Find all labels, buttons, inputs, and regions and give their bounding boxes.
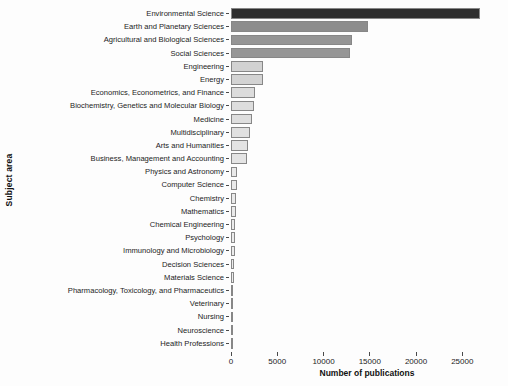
category-label: Economics, Econometrics, and Finance: [0, 86, 224, 99]
y-tick-mark: [226, 264, 229, 265]
bar: [231, 298, 233, 309]
bar-row: Earth and Planetary Sciences: [0, 20, 508, 33]
bar: [231, 21, 368, 32]
y-tick-mark: [226, 79, 229, 80]
bar: [231, 246, 235, 257]
y-tick-mark: [226, 237, 229, 238]
bar: [231, 325, 233, 336]
bar: [231, 61, 263, 72]
bar-row: Psychology: [0, 231, 508, 244]
bar-row: Social Sciences: [0, 47, 508, 60]
bar: [231, 232, 235, 243]
category-label: Veterinary: [0, 297, 224, 310]
bar-zone: [231, 48, 508, 59]
bar-row: Pharmacology, Toxicology, and Pharmaceut…: [0, 284, 508, 297]
category-label: Health Professions: [0, 337, 224, 350]
bar-row: Energy: [0, 73, 508, 86]
bar-zone: [231, 246, 508, 257]
bar-zone: [231, 193, 508, 204]
y-tick-mark: [226, 277, 229, 278]
bar-zone: [231, 206, 508, 217]
bar-row: Business, Management and Accounting: [0, 152, 508, 165]
x-tick-mark: [416, 352, 417, 356]
bar-row: Health Professions: [0, 337, 508, 350]
bar-zone: [231, 180, 508, 191]
bar-row: Materials Science: [0, 271, 508, 284]
bar: [231, 48, 350, 59]
y-tick-mark: [226, 105, 229, 106]
bar-chart-figure: Subject area Environmental ScienceEarth …: [0, 0, 508, 386]
bar-row: Economics, Econometrics, and Finance: [0, 86, 508, 99]
bar: [231, 101, 254, 112]
y-tick-mark: [226, 211, 229, 212]
category-label: Psychology: [0, 231, 224, 244]
bar-zone: [231, 114, 508, 125]
bar-zone: [231, 312, 508, 323]
category-label: Energy: [0, 73, 224, 86]
bar: [231, 35, 352, 46]
category-label: Medicine: [0, 113, 224, 126]
bar-zone: [231, 259, 508, 270]
bar-row: Veterinary: [0, 297, 508, 310]
bar-zone: [231, 21, 508, 32]
bar: [231, 167, 237, 178]
bar: [231, 180, 237, 191]
bar-zone: [231, 35, 508, 46]
y-tick-mark: [226, 26, 229, 27]
y-tick-mark: [226, 158, 229, 159]
bar: [231, 259, 234, 270]
x-axis-title: Number of publications: [231, 368, 503, 378]
y-tick-mark: [226, 316, 229, 317]
bar-row: Biochemistry, Genetics and Molecular Bio…: [0, 99, 508, 112]
plot-area: Environmental ScienceEarth and Planetary…: [0, 7, 508, 350]
bar: [231, 312, 233, 323]
x-tick-mark: [323, 352, 324, 356]
bar: [231, 87, 255, 98]
bar-row: Immunology and Microbiology: [0, 244, 508, 257]
bar-row: Decision Sciences: [0, 258, 508, 271]
bar-zone: [231, 74, 508, 85]
bar: [231, 8, 480, 19]
category-label: Pharmacology, Toxicology, and Pharmaceut…: [0, 284, 224, 297]
bar-row: Multidisciplinary: [0, 126, 508, 139]
category-label: Neuroscience: [0, 324, 224, 337]
bar-zone: [231, 167, 508, 178]
y-tick-mark: [226, 330, 229, 331]
y-tick-mark: [226, 66, 229, 67]
y-tick-mark: [226, 343, 229, 344]
bar-zone: [231, 325, 508, 336]
bar-row: Arts and Humanities: [0, 139, 508, 152]
bar-row: Chemistry: [0, 192, 508, 205]
x-tick-label: 0: [229, 357, 233, 366]
y-tick-mark: [226, 92, 229, 93]
x-tick-label: 20000: [405, 357, 427, 366]
x-axis: Number of publications 05000100001500020…: [231, 352, 503, 382]
bar: [231, 140, 248, 151]
bar-zone: [231, 8, 508, 19]
category-label: Mathematics: [0, 205, 224, 218]
bar-row: Computer Science: [0, 178, 508, 191]
bar-zone: [231, 61, 508, 72]
y-tick-mark: [226, 145, 229, 146]
bar: [231, 153, 247, 164]
bar-row: Chemical Engineering: [0, 218, 508, 231]
y-tick-mark: [226, 198, 229, 199]
bar: [231, 272, 234, 283]
category-label: Chemical Engineering: [0, 218, 224, 231]
y-tick-mark: [226, 119, 229, 120]
y-tick-mark: [226, 171, 229, 172]
bar-zone: [231, 219, 508, 230]
x-tick-mark: [462, 352, 463, 356]
y-tick-mark: [226, 132, 229, 133]
category-label: Decision Sciences: [0, 258, 224, 271]
bar-row: Environmental Science: [0, 7, 508, 20]
bar-row: Engineering: [0, 60, 508, 73]
y-tick-mark: [226, 53, 229, 54]
bar: [231, 127, 250, 138]
category-label: Physics and Astronomy: [0, 165, 224, 178]
category-label: Business, Management and Accounting: [0, 152, 224, 165]
bar-zone: [231, 153, 508, 164]
bar: [231, 114, 252, 125]
bar-zone: [231, 338, 508, 349]
bar: [231, 285, 233, 296]
